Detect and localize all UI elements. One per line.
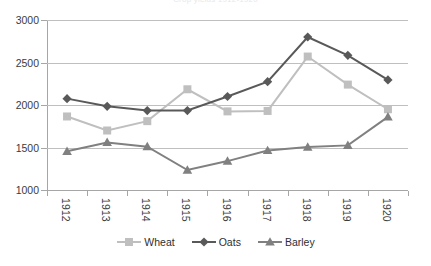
legend-item-oats[interactable]: Oats xyxy=(191,236,241,248)
legend-label: Oats xyxy=(219,236,241,248)
legend-label: Wheat xyxy=(144,236,174,248)
line-chart: Crop yields 1912-1920 300025002000150010… xyxy=(0,0,431,266)
triangle-marker-icon xyxy=(257,236,283,248)
data-point xyxy=(344,81,352,89)
data-point xyxy=(103,102,112,111)
data-point xyxy=(62,94,71,103)
square-marker-icon xyxy=(116,236,142,248)
series-barley xyxy=(62,112,392,174)
data-point xyxy=(143,117,151,125)
data-point xyxy=(383,112,393,120)
chart-legend: WheatOatsBarley xyxy=(0,236,431,248)
data-point xyxy=(384,105,392,113)
legend-item-wheat[interactable]: Wheat xyxy=(116,236,174,248)
data-point xyxy=(183,85,191,93)
data-point xyxy=(63,112,71,120)
series-oats xyxy=(62,32,392,115)
data-point xyxy=(304,53,312,61)
data-point xyxy=(143,106,152,115)
data-point xyxy=(183,106,192,115)
diamond-marker-icon xyxy=(191,236,217,248)
data-point xyxy=(264,107,272,115)
data-point xyxy=(343,51,352,60)
series-layer xyxy=(0,0,431,266)
data-point xyxy=(224,107,232,115)
data-point xyxy=(223,92,232,101)
legend-item-barley[interactable]: Barley xyxy=(257,236,315,248)
data-point xyxy=(383,75,392,84)
data-point xyxy=(103,127,111,135)
legend-label: Barley xyxy=(285,236,315,248)
